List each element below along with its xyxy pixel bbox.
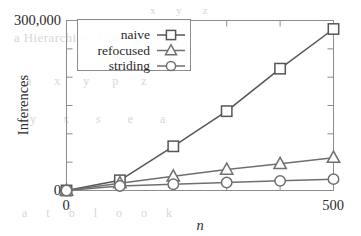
line-chart: 300,000 0 0 500 Inferences n naiverefocu…	[0, 0, 361, 236]
marker-square	[166, 30, 175, 39]
marker-circle	[61, 185, 71, 195]
legend-label-naive: naive	[121, 27, 150, 42]
legend-label-refocused: refocused	[98, 43, 151, 58]
marker-circle	[222, 177, 232, 187]
marker-circle	[168, 179, 178, 189]
series-refocused	[60, 151, 339, 195]
x-axis-min-label: 0	[62, 197, 69, 213]
y-axis-min-label: 0	[54, 182, 61, 198]
x-axis-max-label: 500	[322, 197, 344, 213]
legend-label-striding: striding	[109, 58, 151, 73]
y-axis-max-label: 300,000	[14, 12, 61, 28]
y-axis-title: Inferences	[15, 74, 31, 135]
marker-square	[275, 63, 285, 73]
marker-square	[168, 141, 178, 151]
marker-circle	[166, 61, 175, 70]
chart-legend: naiverefocusedstriding	[78, 20, 191, 74]
marker-circle	[115, 181, 125, 191]
marker-circle	[328, 174, 338, 184]
figure-container: x y z a Hierarchical Filtering a x y p z…	[0, 0, 361, 236]
marker-triangle	[327, 151, 339, 162]
marker-square	[222, 106, 232, 116]
series-line-refocused	[67, 158, 334, 191]
marker-circle	[275, 176, 285, 186]
x-axis-title: n	[196, 217, 203, 233]
marker-square	[328, 24, 338, 34]
